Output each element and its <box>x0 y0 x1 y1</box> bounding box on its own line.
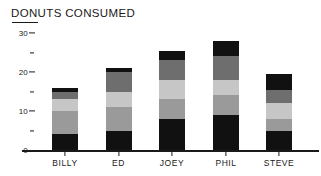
bar-segment <box>159 119 185 150</box>
y-axis-tick-major <box>29 32 35 33</box>
chart-title: DONUTS CONSUMED <box>11 7 135 19</box>
title-underline <box>12 22 38 23</box>
y-axis-tick-minor <box>30 91 34 92</box>
bar-phil[interactable] <box>213 41 239 150</box>
bar-segment <box>106 72 132 92</box>
bar-billy[interactable] <box>52 88 78 150</box>
bar-segment <box>266 90 292 104</box>
donuts-consumed-chart: DONUTS CONSUMED 0102030 BILLYEDJOEYPHILS… <box>0 0 321 176</box>
y-axis-tick-minor <box>30 52 34 53</box>
x-axis-label-steve: STEVE <box>264 158 295 168</box>
bar-segment <box>159 80 185 100</box>
x-axis-tick <box>171 152 172 156</box>
bar-segment <box>159 51 185 61</box>
y-axis-tick-label: 10 <box>19 107 28 116</box>
x-axis-tick <box>225 152 226 156</box>
bar-segment <box>106 131 132 151</box>
bar-segment <box>266 131 292 151</box>
x-axis-tick <box>64 152 65 156</box>
bar-joey[interactable] <box>159 51 185 150</box>
bar-segment <box>213 80 239 96</box>
bar-segment <box>52 111 78 134</box>
x-axis-tick <box>118 152 119 156</box>
bar-segment <box>266 74 292 90</box>
bar-segment <box>159 99 185 119</box>
bar-segment <box>106 107 132 130</box>
bar-segment <box>106 92 132 108</box>
x-axis-label-billy: BILLY <box>52 158 77 168</box>
bar-steve[interactable] <box>266 74 292 150</box>
y-axis-ticks <box>29 33 36 150</box>
bar-segment <box>52 134 78 150</box>
bar-segment <box>52 99 78 111</box>
bar-ed[interactable] <box>106 68 132 150</box>
bar-segment <box>159 60 185 80</box>
bar-segment <box>266 119 292 131</box>
bar-segment <box>213 41 239 57</box>
bar-segment <box>266 103 292 119</box>
y-axis-tick-label: 20 <box>19 68 28 77</box>
x-axis-tick <box>278 152 279 156</box>
bar-segment <box>52 92 78 100</box>
y-axis-tick-label: 30 <box>19 29 28 38</box>
y-axis-tick-minor <box>30 130 34 131</box>
x-axis-label-joey: JOEY <box>160 158 184 168</box>
y-axis-tick-major <box>29 71 35 72</box>
bar-segment <box>213 95 239 115</box>
x-axis-label-phil: PHIL <box>215 158 236 168</box>
bar-segment <box>213 56 239 79</box>
y-axis-tick-major <box>29 110 35 111</box>
bar-segment <box>213 115 239 150</box>
plot-area <box>36 33 319 150</box>
x-axis-label-ed: ED <box>112 158 125 168</box>
y-axis-labels: 0102030 <box>10 33 28 150</box>
